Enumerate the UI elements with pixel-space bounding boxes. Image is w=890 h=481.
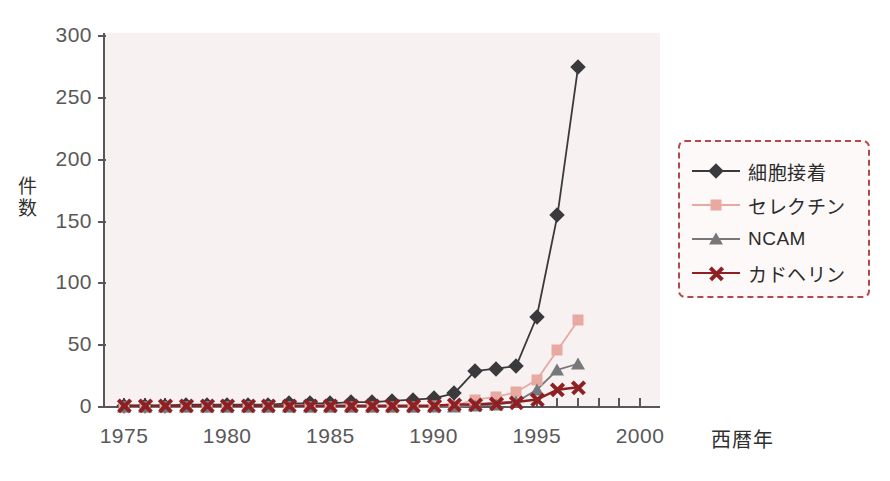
chart-figure: 050100150200250300 197519801985199019952… bbox=[0, 0, 890, 481]
x-tick-label: 1990 bbox=[409, 424, 458, 448]
y-tick-label: 250 bbox=[55, 85, 92, 109]
chart-legend: 細胞接着セレクチンNCAMカドヘリン bbox=[678, 140, 870, 298]
legend-label: セレクチン bbox=[748, 192, 846, 219]
x-tick-label: 1975 bbox=[100, 424, 149, 448]
x-tick-label: 1980 bbox=[203, 424, 252, 448]
legend-marker bbox=[690, 227, 742, 251]
triangle-icon bbox=[709, 232, 723, 244]
triangle-marker bbox=[571, 357, 585, 369]
legend-label: NCAM bbox=[748, 228, 806, 250]
legend-marker bbox=[690, 261, 742, 285]
legend-item[interactable]: セレクチン bbox=[690, 190, 846, 220]
y-tick bbox=[98, 406, 106, 408]
y-tick bbox=[98, 35, 106, 37]
y-tick-label: 300 bbox=[55, 23, 92, 47]
legend-label: カドヘリン bbox=[748, 260, 846, 287]
legend-item[interactable]: 細胞接着 bbox=[690, 156, 826, 186]
legend-item[interactable]: NCAM bbox=[690, 224, 806, 254]
y-tick bbox=[98, 159, 106, 161]
x-tick bbox=[639, 398, 641, 407]
y-tick-label: 150 bbox=[55, 209, 92, 233]
x-tick bbox=[556, 398, 558, 407]
y-tick-label: 50 bbox=[68, 332, 92, 356]
x-axis-label: 西暦年 bbox=[711, 424, 774, 453]
legend-marker bbox=[690, 159, 742, 183]
legend-label: 細胞接着 bbox=[748, 158, 826, 185]
square-icon bbox=[711, 200, 722, 211]
x-tick-label: 1995 bbox=[512, 424, 561, 448]
y-tick bbox=[98, 221, 106, 223]
x-tick bbox=[618, 398, 620, 407]
y-tick bbox=[98, 344, 106, 346]
scan-edge-top bbox=[0, 0, 890, 6]
y-tick bbox=[98, 282, 106, 284]
x-tick-label: 1985 bbox=[306, 424, 355, 448]
x-tick-label: 2000 bbox=[616, 424, 665, 448]
diamond-icon bbox=[708, 163, 724, 179]
square-marker bbox=[552, 345, 563, 356]
square-marker bbox=[573, 315, 584, 326]
y-axis-label: 件数 bbox=[14, 176, 40, 220]
y-tick-label: 200 bbox=[55, 147, 92, 171]
x-tick bbox=[577, 398, 579, 407]
legend-item[interactable]: カドヘリン bbox=[690, 258, 846, 288]
y-tick-label: 0 bbox=[80, 394, 92, 418]
plot-area bbox=[104, 33, 660, 408]
x-tick bbox=[598, 398, 600, 407]
y-tick-label: 100 bbox=[55, 270, 92, 294]
triangle-marker bbox=[550, 363, 564, 375]
y-tick bbox=[98, 97, 106, 99]
legend-marker bbox=[690, 193, 742, 217]
